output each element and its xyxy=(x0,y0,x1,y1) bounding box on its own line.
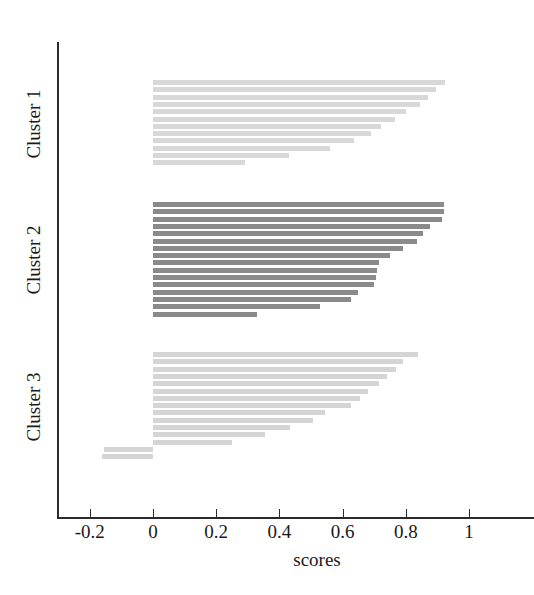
silhouette-bar xyxy=(153,146,330,151)
silhouette-bar xyxy=(153,87,436,92)
silhouette-bar xyxy=(153,410,325,415)
silhouette-bar xyxy=(102,454,153,459)
silhouette-bar xyxy=(153,224,430,229)
silhouette-bar xyxy=(153,160,245,165)
bars-layer xyxy=(0,0,534,595)
silhouette-bar xyxy=(153,268,377,273)
silhouette-bar xyxy=(153,418,313,423)
silhouette-bar xyxy=(153,440,232,445)
silhouette-bar xyxy=(153,109,406,114)
silhouette-bar xyxy=(153,367,396,372)
silhouette-bar xyxy=(153,253,390,258)
silhouette-bar xyxy=(153,217,442,222)
silhouette-bar xyxy=(153,374,387,379)
silhouette-bar xyxy=(153,209,444,214)
silhouette-bar xyxy=(153,124,381,129)
silhouette-bar xyxy=(153,231,423,236)
silhouette-bar xyxy=(153,131,371,136)
silhouette-bar xyxy=(153,297,351,302)
silhouette-bar xyxy=(153,153,289,158)
silhouette-plot: -0.200.20.40.60.81 scores Cluster 1Clust… xyxy=(0,0,534,595)
silhouette-bar xyxy=(153,260,379,265)
silhouette-bar xyxy=(153,432,265,437)
silhouette-bar xyxy=(153,202,444,207)
silhouette-bar xyxy=(153,381,379,386)
silhouette-bar xyxy=(153,396,360,401)
silhouette-bar xyxy=(153,117,395,122)
silhouette-bar xyxy=(153,275,376,280)
silhouette-bar xyxy=(153,290,358,295)
silhouette-bar xyxy=(153,403,351,408)
silhouette-bar xyxy=(153,95,428,100)
silhouette-bar xyxy=(153,138,354,143)
silhouette-bar xyxy=(104,447,153,452)
silhouette-bar xyxy=(153,80,445,85)
silhouette-bar xyxy=(153,102,420,107)
silhouette-bar xyxy=(153,246,403,251)
silhouette-bar xyxy=(153,359,403,364)
silhouette-bar xyxy=(153,425,290,430)
silhouette-bar xyxy=(153,239,417,244)
silhouette-bar xyxy=(153,389,368,394)
silhouette-bar xyxy=(153,352,418,357)
silhouette-bar xyxy=(153,312,257,317)
silhouette-bar xyxy=(153,304,320,309)
silhouette-bar xyxy=(153,282,374,287)
